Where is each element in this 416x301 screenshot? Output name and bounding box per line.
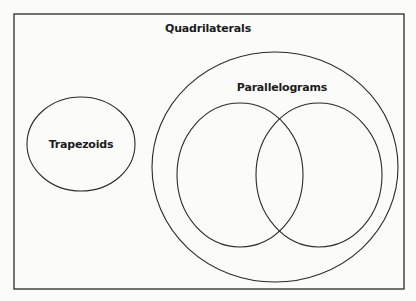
- quadrilaterals-boundary: [14, 14, 404, 289]
- subset-left-ellipse: [177, 103, 303, 247]
- parallelograms-label: Parallelograms: [237, 81, 327, 94]
- quadrilaterals-label: Quadrilaterals: [165, 22, 251, 35]
- subset-right-ellipse: [256, 103, 382, 247]
- diagram-shapes: [0, 0, 416, 301]
- trapezoids-label: Trapezoids: [49, 138, 114, 151]
- venn-diagram: Quadrilaterals Trapezoids Parallelograms: [0, 0, 416, 301]
